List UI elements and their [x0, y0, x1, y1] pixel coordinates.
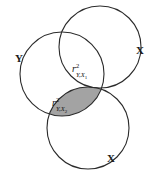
svg-text:Y,X1: Y,X1 [76, 71, 88, 80]
r2-y-x1-subscript-index: 1 [85, 75, 88, 80]
circle-x1-upper [59, 6, 141, 88]
r2-y-x2-superscript: 2 [56, 96, 59, 103]
label-criterion-y: Y [15, 52, 23, 64]
label-predictor-x2: X [107, 152, 115, 164]
venn-diagram-figure: Y X X r2 Y,X1 r2 Y,X2 [0, 0, 158, 170]
label-r2-y-x1: r2 Y,X1 [72, 62, 88, 80]
venn-diagram-canvas: Y X X r2 Y,X1 r2 Y,X2 [0, 0, 158, 170]
label-predictor-x1: X [136, 44, 144, 56]
r2-y-x1-superscript: 2 [76, 62, 79, 69]
